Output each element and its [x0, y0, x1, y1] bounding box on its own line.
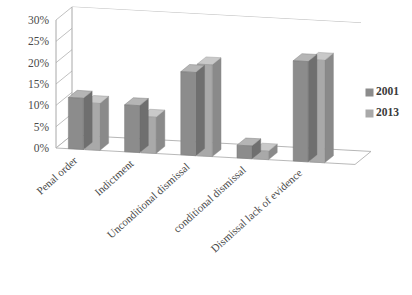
chart-canvas: 0%5%10%15%20%25%30% Penal orderIndictmen…: [0, 0, 412, 295]
legend-swatch: [366, 110, 373, 117]
legend: 20012013: [366, 85, 399, 118]
category-label: Indictment: [92, 157, 135, 198]
bar-chart: 0%5%10%15%20%25%30% Penal orderIndictmen…: [0, 0, 412, 295]
legend-swatch: [366, 89, 373, 96]
legend-label: 2013: [376, 106, 399, 118]
legend-label: 2001: [376, 85, 399, 97]
bar: [181, 65, 205, 156]
category-labels: Penal orderIndictmentUnconditional dismi…: [34, 154, 304, 255]
y-axis-tick-label: 25%: [28, 35, 50, 47]
y-axis-tick-labels: 0%5%10%15%20%25%30%: [28, 14, 50, 154]
y-axis-tick-label: 20%: [28, 57, 50, 69]
bar: [68, 90, 92, 149]
bar: [125, 98, 149, 153]
y-axis-tick-label: 10%: [28, 99, 50, 111]
bar: [293, 54, 317, 162]
y-axis-tick-label: 30%: [28, 14, 50, 26]
category-label: Penal order: [34, 154, 80, 197]
y-axis-tick-label: 5%: [34, 121, 50, 133]
y-axis-tick-label: 0%: [34, 142, 50, 154]
y-axis-tick-label: 15%: [28, 78, 50, 90]
